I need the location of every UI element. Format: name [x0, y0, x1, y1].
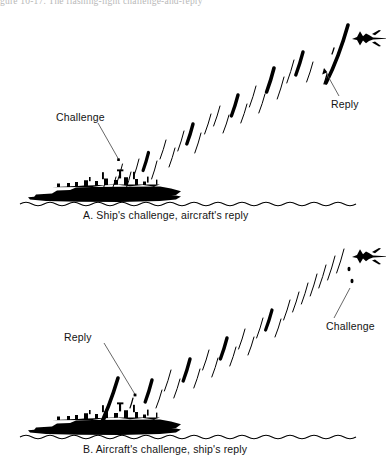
label-reply-panel-b: Reply	[64, 331, 92, 343]
label-challenge-panel-b: Challenge	[326, 320, 375, 332]
leader-line-a-challenge	[98, 123, 120, 161]
jet-aircraft-silhouette-a	[352, 30, 386, 47]
jet-aircraft-silhouette-b	[352, 248, 386, 265]
signal-beam-b	[145, 249, 344, 408]
panel-b	[20, 248, 386, 439]
caption-panel-a: A. Ship's challenge, aircraft's reply	[83, 209, 248, 221]
label-challenge-panel-a: Challenge	[56, 111, 105, 123]
signal-beam-a	[101, 52, 313, 195]
figure-root: gure 10-17. The flashing-light challenge…	[0, 0, 392, 463]
label-reply-panel-a: Reply	[331, 98, 359, 110]
leader-line-b-reply	[104, 343, 136, 396]
figure-illustration	[0, 0, 392, 463]
leader-line-b-challenge	[334, 288, 350, 318]
challenge-flashes-b	[348, 267, 354, 283]
caption-panel-b: B. Aircraft's challenge, ship's reply	[83, 443, 247, 455]
waterline-a	[20, 202, 356, 205]
reply-beam-arc-a	[326, 25, 348, 83]
waterline-b	[20, 435, 356, 438]
